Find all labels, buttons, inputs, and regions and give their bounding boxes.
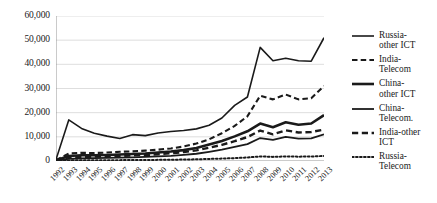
plot-area <box>56 16 324 161</box>
chart-figure: 010,00020,00030,00040,00050,00060,000 19… <box>0 0 437 203</box>
legend-item: India- Telecom <box>352 54 411 74</box>
legend-item: China- Telecom. <box>352 103 413 123</box>
legend-swatch-line <box>352 33 374 45</box>
series-line-russia-other-ict <box>56 38 324 160</box>
data-series-layer <box>56 38 324 161</box>
y-axis-tick-label: 10,000 <box>24 131 50 141</box>
y-axis-tick-label: 30,000 <box>24 83 50 93</box>
legend-label: India- Telecom <box>379 54 411 74</box>
legend-swatch-line <box>352 154 374 166</box>
y-axis-tick-label: 60,000 <box>24 10 50 20</box>
legend-label: Russia- other ICT <box>379 30 415 50</box>
legend-item: Russia- Telecom <box>352 151 411 171</box>
y-axis-tick-label: 50,000 <box>24 34 50 44</box>
legend-label: China- Telecom. <box>379 103 413 123</box>
legend-swatch-line <box>352 81 374 93</box>
legend-item: India-other ICT <box>352 127 420 147</box>
legend-swatch-line <box>352 130 374 142</box>
y-axis-tick-label: 20,000 <box>24 107 50 117</box>
y-axis-tick-label: 40,000 <box>24 58 50 68</box>
legend-item: China- other ICT <box>352 78 415 98</box>
legend-item: Russia- other ICT <box>352 30 415 50</box>
grid-lines <box>56 16 324 137</box>
legend-label: Russia- Telecom <box>379 151 411 171</box>
y-axis-tick-label: 0 <box>45 155 50 165</box>
legend-label: China- other ICT <box>379 78 415 98</box>
legend-swatch-line <box>352 57 374 69</box>
legend-swatch-line <box>352 106 374 118</box>
legend-label: India-other ICT <box>379 127 420 147</box>
